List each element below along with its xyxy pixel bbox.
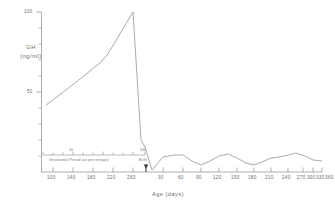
x-tick-label-90: 90 [196, 175, 202, 180]
x-tick-label-p260: 260 [127, 175, 136, 180]
x-tick-label-p100: 100 [47, 175, 56, 180]
x-tick-label-p180: 180 [87, 175, 96, 180]
figure-canvas: 100 50 GH (ng/ml) 50 100 Gestational Per… [0, 0, 335, 209]
x-tick-label-300: 300 [307, 175, 316, 180]
x-tick-label-120: 120 [213, 175, 222, 180]
gh-curve-perinatal-drop [133, 12, 152, 170]
x-tick-label-150: 150 [231, 175, 240, 180]
inner-axis-title: Gestational Period (as percentage) [49, 158, 109, 162]
x-tick-label-240: 240 [282, 175, 291, 180]
x-tick-label-270: 270 [297, 175, 306, 180]
birth-marker-icon [144, 164, 149, 172]
y-axis-title-line2: (ng/ml) [12, 53, 50, 60]
y-tick-label-100: 100 [24, 9, 33, 14]
inner-axis-tick-50: 50 [69, 148, 73, 152]
x-tick-label-60: 60 [178, 175, 184, 180]
y-axis-title-line1: GH [14, 44, 48, 51]
inner-axis-tick-100: 100 [140, 148, 146, 152]
x-tick-label-180: 180 [248, 175, 257, 180]
x-tick-label-30: 30 [158, 175, 164, 180]
x-axis-ticks [53, 168, 322, 173]
x-tick-label-210: 210 [265, 175, 274, 180]
x-axis-title: Age (days) [152, 191, 184, 197]
gh-curve-postnatal [152, 153, 322, 170]
inner-axis-ticks [43, 152, 145, 156]
x-tick-label-p220: 220 [107, 175, 116, 180]
birth-label: Birth [139, 158, 147, 162]
gh-curve-prenatal [46, 12, 133, 105]
y-tick-label-50: 50 [27, 89, 33, 94]
x-tick-label-330: 330 [316, 175, 325, 180]
x-tick-label-p140: 140 [67, 175, 76, 180]
x-tick-label-360: 360 [325, 175, 334, 180]
